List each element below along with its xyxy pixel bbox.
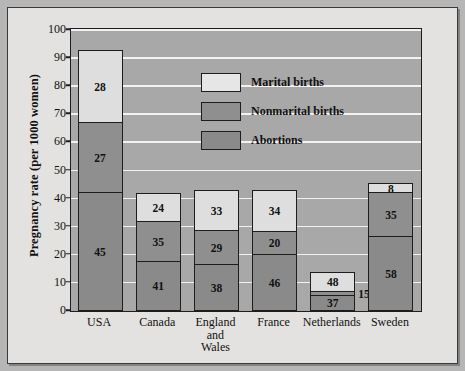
legend-swatch-marital — [201, 73, 241, 92]
bar-segment-nonmarital[interactable]: 20 — [252, 231, 297, 256]
bar-segment-marital[interactable]: 24 — [136, 193, 181, 222]
bar-segment-nonmarital[interactable]: 35 — [136, 221, 181, 263]
legend-label: Marital births — [251, 75, 324, 90]
bar-canada[interactable]: 243541 — [136, 190, 181, 311]
bar-segment-abortion[interactable]: 45 — [78, 192, 123, 311]
bar-segment-marital[interactable]: 28 — [78, 50, 123, 124]
segment-value-label: 20 — [269, 237, 281, 249]
bar-segment-marital[interactable]: 48 — [310, 272, 355, 292]
segment-value-label: 27 — [94, 152, 106, 164]
legend-label: Nonmarital births — [251, 104, 344, 119]
bar-segment-nonmarital[interactable]: 27 — [78, 122, 123, 193]
x-axis-label-line: Wales — [165, 341, 265, 354]
segment-value-label: 58 — [385, 268, 397, 280]
y-axis-tick-label: 30 — [54, 218, 66, 233]
bar-segment-abortion[interactable]: 58 — [368, 236, 413, 311]
bar-segment-nonmarital[interactable]: 35 — [368, 192, 413, 237]
y-axis-tick-label: 20 — [54, 246, 66, 261]
segment-value-label: 38 — [211, 282, 223, 294]
legend: Marital birthsNonmarital birthsAbortions — [201, 71, 344, 158]
legend-item-marital[interactable]: Marital births — [201, 71, 344, 94]
legend-item-nonmarital[interactable]: Nonmarital births — [201, 100, 344, 123]
bar-segment-abortion[interactable]: 46 — [252, 254, 297, 311]
legend-swatch-abortion — [201, 131, 241, 150]
segment-value-label: 48 — [327, 276, 339, 288]
bar-england-and-wales[interactable]: 332938 — [194, 187, 239, 311]
bar-segment-abortion[interactable]: 38 — [194, 264, 239, 311]
bar-segment-marital[interactable]: 34 — [252, 190, 297, 232]
y-axis-tick-label: 60 — [54, 134, 66, 149]
y-axis-tick-label: 80 — [54, 78, 66, 93]
segment-value-label: 34 — [269, 205, 281, 217]
segment-value-label: 46 — [269, 277, 281, 289]
bar-segment-abortion[interactable]: 37 — [310, 295, 355, 311]
bar-segment-nonmarital[interactable]: 29 — [194, 230, 239, 266]
y-axis-title: Pregnancy rate (per 1000 women) — [27, 36, 42, 296]
chart-figure: Pregnancy rate (per 1000 women) 10090807… — [7, 7, 458, 364]
x-axis-label-line: Sweden — [340, 316, 440, 329]
y-axis-tick-label: 50 — [54, 162, 66, 177]
legend-swatch-nonmarital — [201, 102, 241, 121]
segment-value-label: 35 — [385, 209, 397, 221]
segment-value-label: 37 — [327, 297, 339, 309]
segment-value-label: 29 — [211, 242, 223, 254]
bar-segment-abortion[interactable]: 41 — [136, 261, 181, 311]
y-axis-tick-label: 100 — [48, 22, 66, 37]
segment-value-label: 45 — [94, 246, 106, 258]
segment-value-label: 24 — [153, 202, 165, 214]
bar-sweden[interactable]: 83558 — [368, 182, 413, 311]
segment-value-label: 28 — [94, 81, 106, 93]
legend-label: Abortions — [251, 133, 302, 148]
y-axis-tick-label: 70 — [54, 106, 66, 121]
bar-france[interactable]: 342046 — [252, 187, 297, 311]
x-axis-label-sweden: Sweden — [340, 316, 440, 329]
y-axis-tick-label: 10 — [54, 274, 66, 289]
y-axis-tick-label: 40 — [54, 190, 66, 205]
chart-figure-outer-border: Pregnancy rate (per 1000 women) 10090807… — [0, 0, 465, 371]
segment-value-label: 33 — [211, 205, 223, 217]
y-axis-tick-label: 90 — [54, 50, 66, 65]
bar-usa[interactable]: 282745 — [78, 47, 123, 311]
bar-segment-marital[interactable]: 33 — [194, 190, 239, 231]
segment-value-label: 41 — [153, 280, 165, 292]
bar-netherlands[interactable]: 481537 — [310, 269, 355, 311]
legend-item-abortion[interactable]: Abortions — [201, 129, 344, 152]
segment-value-label: 35 — [153, 236, 165, 248]
